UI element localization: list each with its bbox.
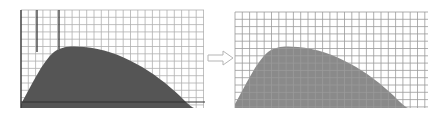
before-grid-chart	[0, 0, 210, 115]
before-panel	[0, 0, 210, 115]
after-grid-chart	[228, 0, 439, 115]
after-panel	[228, 0, 439, 115]
filled-hump-shape	[21, 47, 194, 108]
